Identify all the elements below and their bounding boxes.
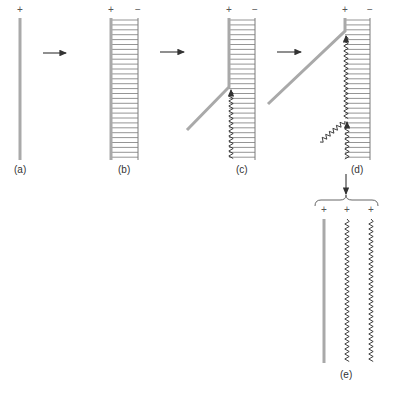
- panel-e: + + + (e): [321, 204, 374, 380]
- panel-label-d: (d): [351, 164, 363, 175]
- panel-c: + − (c): [187, 4, 258, 175]
- plus-sign: +: [108, 4, 114, 15]
- base-pair-rungs: [229, 20, 255, 157]
- strand-separation-diagram: + (a) + − (b) + − (c) + −: [0, 0, 393, 394]
- new-strand-zigzag: [229, 91, 233, 159]
- minus-sign: −: [135, 4, 141, 15]
- product-strand-zigzag: [345, 219, 349, 362]
- plus-sign: +: [17, 4, 23, 15]
- minus-sign: −: [367, 4, 373, 15]
- displaced-new-strand-zigzag: [320, 121, 345, 142]
- panel-label-a: (a): [14, 164, 26, 175]
- plus-sign: +: [368, 204, 374, 215]
- panel-label-b: (b): [118, 164, 130, 175]
- displaced-template-strand: [187, 18, 229, 130]
- panel-d: + − (d): [268, 4, 373, 175]
- product-strand-zigzag: [369, 219, 373, 362]
- panel-b: + − (b): [108, 4, 141, 175]
- panel-a: + (a): [14, 4, 26, 175]
- plus-sign: +: [342, 4, 348, 15]
- base-pair-rungs: [111, 20, 138, 157]
- plus-sign: +: [344, 204, 350, 215]
- new-strand-zigzag-lower: [345, 124, 349, 159]
- panel-label-c: (c): [236, 164, 248, 175]
- panel-label-e: (e): [340, 369, 352, 380]
- displaced-template-strand: [268, 18, 345, 104]
- plus-sign: +: [226, 4, 232, 15]
- new-strand-zigzag: [344, 36, 348, 119]
- plus-sign: +: [321, 204, 327, 215]
- minus-sign: −: [252, 4, 258, 15]
